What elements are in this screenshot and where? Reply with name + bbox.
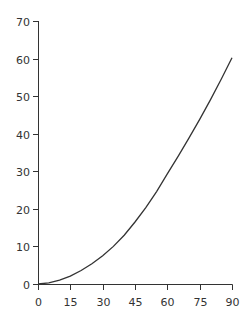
line-chart: 0102030405060700153045607590	[0, 0, 250, 322]
y-tick-label: 10	[16, 241, 30, 254]
y-tick-label: 40	[16, 129, 30, 142]
x-tick-label: 60	[161, 296, 175, 309]
x-tick-label: 90	[226, 296, 240, 309]
x-tick-label: 0	[35, 296, 42, 309]
x-tick-label: 30	[97, 296, 111, 309]
x-tick-label: 75	[194, 296, 208, 309]
axes	[38, 21, 233, 285]
y-tick-label: 50	[16, 91, 30, 104]
y-tick-label: 30	[16, 166, 30, 179]
x-tick-label: 45	[129, 296, 143, 309]
data-line	[38, 58, 232, 284]
y-tick-label: 60	[16, 54, 30, 67]
y-tick-label: 0	[23, 279, 30, 292]
x-tick-label: 15	[64, 296, 78, 309]
y-tick-label: 70	[16, 16, 30, 29]
y-tick-label: 20	[16, 204, 30, 217]
ticks: 0102030405060700153045607590	[16, 16, 240, 310]
